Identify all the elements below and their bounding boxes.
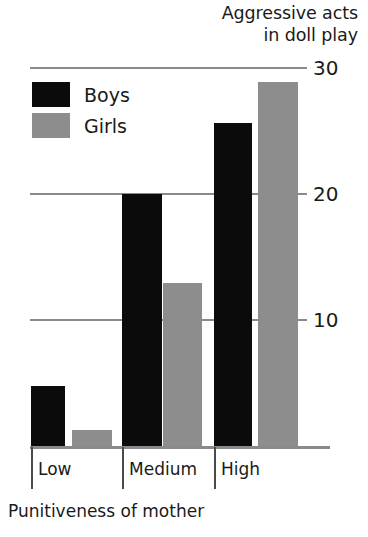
bar-girls-medium bbox=[163, 283, 202, 446]
legend-item-girls: Girls bbox=[32, 113, 130, 138]
plot-area: 30 20 10 bbox=[0, 0, 368, 470]
category-label-medium: Medium bbox=[129, 459, 197, 479]
legend-label-boys: Boys bbox=[84, 84, 130, 106]
legend-item-boys: Boys bbox=[32, 82, 130, 107]
category-label-low: Low bbox=[38, 459, 71, 479]
category-tick-high bbox=[214, 447, 216, 489]
chart-legend: Boys Girls bbox=[32, 82, 130, 144]
category-label-high: High bbox=[221, 459, 260, 479]
x-axis-baseline bbox=[30, 446, 330, 449]
gridline-30 bbox=[30, 67, 307, 69]
x-axis-title: Punitiveness of mother bbox=[8, 500, 204, 522]
category-tick-left bbox=[31, 447, 33, 489]
bar-boys-high bbox=[214, 123, 252, 446]
bar-girls-high bbox=[258, 82, 298, 446]
bar-boys-low bbox=[31, 386, 65, 446]
legend-label-girls: Girls bbox=[84, 115, 127, 137]
ytick-label-20: 20 bbox=[313, 184, 338, 204]
bar-girls-low bbox=[72, 430, 112, 446]
category-tick-medium bbox=[122, 447, 124, 489]
ytick-label-30: 30 bbox=[313, 58, 338, 78]
chart-container: Aggressive acts in doll play 30 20 10 Lo… bbox=[0, 0, 368, 537]
ytick-label-10: 10 bbox=[313, 310, 338, 330]
legend-swatch-girls-icon bbox=[32, 113, 70, 138]
legend-swatch-boys-icon bbox=[32, 82, 70, 107]
bar-boys-medium bbox=[122, 194, 162, 446]
